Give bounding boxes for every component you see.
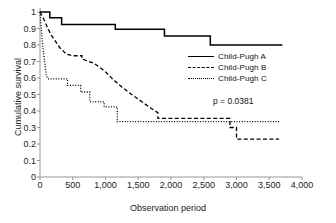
x-tick-label: 500 [65, 180, 80, 190]
legend-label: Child-Pugh C [218, 74, 267, 83]
x-tick-label: 1,000 [94, 180, 117, 190]
x-tick-label: 3,000 [225, 180, 248, 190]
y-axis-title: Cumulative survival [13, 27, 23, 167]
chart-legend: Child-Pugh A Child-Pugh B Child-Pugh C [186, 50, 269, 85]
legend-label: Child-Pugh B [218, 63, 266, 72]
x-tick-label: 4,000 [291, 180, 314, 190]
legend-label: Child-Pugh A [218, 52, 266, 61]
x-tick-label: 2,000 [160, 180, 183, 190]
x-axis-ticklabels: 05001,0001,5002,0002,5003,0003,5004,000 [40, 180, 302, 194]
y-tick-label: 0.9 [23, 24, 36, 34]
y-tick-label: 0.5 [23, 90, 36, 100]
y-tick-label: 1 [31, 7, 36, 17]
y-tick-label: 0.8 [23, 40, 36, 50]
survival-chart: 00.10.20.30.40.50.60.70.80.91 05001,0001… [0, 0, 336, 223]
x-tick-label: 0 [37, 180, 42, 190]
legend-item-child-pugh-b: Child-Pugh B [188, 62, 267, 73]
legend-item-child-pugh-a: Child-Pugh A [188, 51, 267, 62]
y-tick-label: 0.4 [23, 106, 36, 116]
y-tick-label: 0.1 [23, 156, 36, 166]
legend-key-dashed-icon [188, 63, 214, 72]
y-tick-label: 0.7 [23, 57, 36, 67]
legend-key-solid-icon [188, 52, 214, 61]
y-tick-label: 0.2 [23, 139, 36, 149]
p-value-annotation: p = 0.0381 [213, 96, 253, 106]
y-tick-label: 0.3 [23, 123, 36, 133]
y-tick-label: 0 [31, 172, 36, 182]
x-tick-label: 3,500 [258, 180, 281, 190]
legend-key-dotted-icon [188, 74, 214, 83]
y-tick-label: 0.6 [23, 73, 36, 83]
legend-item-child-pugh-c: Child-Pugh C [188, 73, 267, 84]
x-tick-label: 2,500 [192, 180, 215, 190]
x-axis-title: Observation period [0, 203, 336, 213]
x-tick-label: 1,500 [127, 180, 150, 190]
axes [37, 8, 302, 180]
series-line-child-pugh-a [40, 12, 282, 45]
